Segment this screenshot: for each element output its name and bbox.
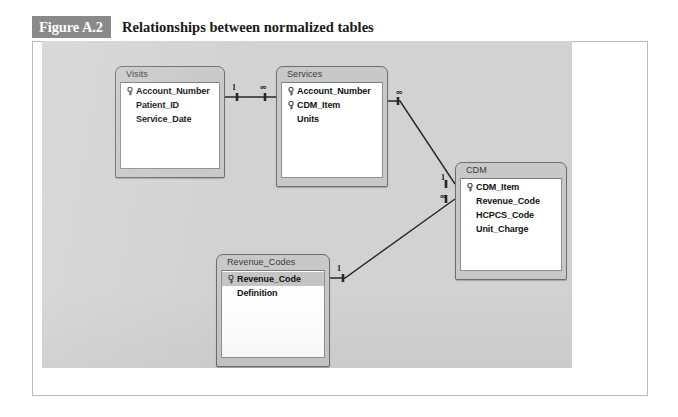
db-field-label: HCPCS_Code bbox=[476, 210, 534, 220]
figure-title: Relationships between normalized tables bbox=[111, 16, 374, 38]
relationship-line-services-cdm bbox=[388, 101, 455, 184]
db-table-fieldlist-cdm: CDM_ItemRevenue_CodeHCPCS_CodeUnit_Charg… bbox=[460, 178, 562, 271]
primary-key-icon bbox=[464, 183, 476, 192]
db-table-title-visits: Visits bbox=[120, 67, 220, 82]
db-field-row[interactable]: Revenue_Code bbox=[222, 272, 324, 286]
db-field-label: Unit_Charge bbox=[476, 224, 528, 234]
db-table-fieldlist-visits: Account_NumberPatient_IDService_Date bbox=[120, 82, 220, 169]
db-field-label: Revenue_Code bbox=[237, 274, 301, 284]
primary-key-icon bbox=[225, 275, 237, 284]
db-table-title-services: Services bbox=[281, 67, 383, 82]
db-field-label: CDM_Item bbox=[297, 100, 340, 110]
db-table-services[interactable]: ServicesAccount_NumberCDM_ItemUnits bbox=[276, 66, 388, 187]
cardinality-label-revenuecodes-cdm-from: 1 bbox=[337, 265, 341, 273]
cardinality-label-services-cdm-to: 1 bbox=[441, 174, 445, 182]
cardinality-label-visits-services-from: 1 bbox=[232, 84, 236, 92]
cardinality-label-services-cdm-from: ∞ bbox=[396, 88, 402, 96]
db-field-label: Patient_ID bbox=[136, 100, 179, 110]
db-table-visits[interactable]: VisitsAccount_NumberPatient_IDService_Da… bbox=[115, 66, 225, 178]
db-field-label: Service_Date bbox=[136, 114, 191, 124]
db-field-label: Revenue_Code bbox=[476, 196, 540, 206]
relationship-diagram-canvas: 1∞∞11∞VisitsAccount_NumberPatient_IDServ… bbox=[42, 41, 572, 368]
primary-key-icon bbox=[124, 87, 136, 96]
figure-number-badge: Figure A.2 bbox=[32, 16, 111, 38]
db-table-fieldlist-revenue_codes: Revenue_CodeDefinition bbox=[221, 270, 325, 358]
db-field-label: Account_Number bbox=[136, 86, 210, 96]
cardinality-label-revenuecodes-cdm-to: ∞ bbox=[440, 192, 446, 200]
db-field-row[interactable]: CDM_Item bbox=[461, 180, 561, 194]
cardinality-label-visits-services-to: ∞ bbox=[260, 83, 266, 91]
db-field-row[interactable]: Definition bbox=[222, 286, 324, 300]
db-field-row[interactable]: Patient_ID bbox=[121, 98, 219, 112]
db-field-row[interactable]: Unit_Charge bbox=[461, 222, 561, 236]
db-table-cdm[interactable]: CDMCDM_ItemRevenue_CodeHCPCS_CodeUnit_Ch… bbox=[455, 162, 567, 280]
db-field-row[interactable]: Account_Number bbox=[121, 84, 219, 98]
db-field-label: Units bbox=[297, 114, 319, 124]
figure-caption: Figure A.2 Relationships between normali… bbox=[32, 16, 374, 38]
relationship-line-revenuecodes-cdm bbox=[330, 199, 455, 278]
db-field-row[interactable]: HCPCS_Code bbox=[461, 208, 561, 222]
db-table-title-cdm: CDM bbox=[460, 163, 562, 178]
primary-key-icon bbox=[285, 101, 297, 110]
db-table-revenue_codes[interactable]: Revenue_CodesRevenue_CodeDefinition bbox=[216, 254, 330, 367]
db-table-title-revenue_codes: Revenue_Codes bbox=[221, 255, 325, 270]
db-field-row[interactable]: CDM_Item bbox=[282, 98, 382, 112]
db-field-row[interactable]: Service_Date bbox=[121, 112, 219, 126]
db-field-row[interactable]: Revenue_Code bbox=[461, 194, 561, 208]
db-field-row[interactable]: Account_Number bbox=[282, 84, 382, 98]
db-field-row[interactable]: Units bbox=[282, 112, 382, 126]
db-table-fieldlist-services: Account_NumberCDM_ItemUnits bbox=[281, 82, 383, 178]
primary-key-icon bbox=[285, 87, 297, 96]
db-field-label: Definition bbox=[237, 288, 278, 298]
db-field-label: CDM_Item bbox=[476, 182, 519, 192]
db-field-label: Account_Number bbox=[297, 86, 371, 96]
